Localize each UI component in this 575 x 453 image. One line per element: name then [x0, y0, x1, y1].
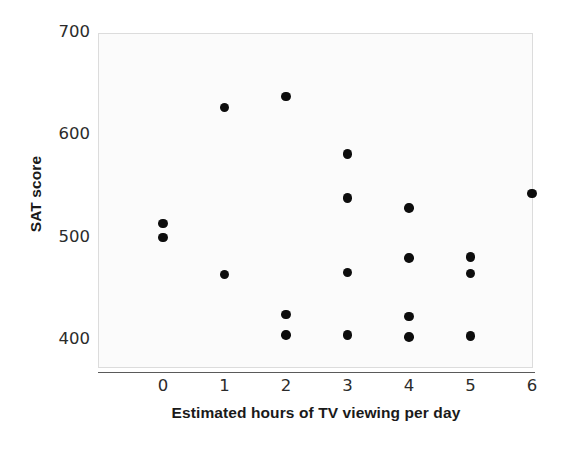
x-axis-tick-label: 1: [210, 376, 240, 395]
x-axis-tick-label: 4: [394, 376, 424, 395]
scatter-chart-figure: SAT score 700600500400 0123456 Estimated…: [0, 0, 575, 453]
y-axis-tick-label: 600: [44, 124, 90, 143]
y-axis-tick-label: 500: [44, 227, 90, 246]
x-axis-tick-label: 5: [456, 376, 486, 395]
x-axis-tick-label: 6: [517, 376, 547, 395]
x-axis-line: [98, 372, 535, 373]
plot-area: [98, 33, 533, 368]
x-axis-tick-label: 3: [333, 376, 363, 395]
x-axis-tick-labels: 0123456: [0, 376, 575, 402]
y-axis-tick-label: 700: [44, 22, 90, 41]
x-axis-tick-label: 2: [271, 376, 301, 395]
y-axis-tick-label: 400: [44, 329, 90, 348]
x-axis-title: Estimated hours of TV viewing per day: [98, 404, 534, 422]
x-axis-tick-label: 0: [148, 376, 178, 395]
